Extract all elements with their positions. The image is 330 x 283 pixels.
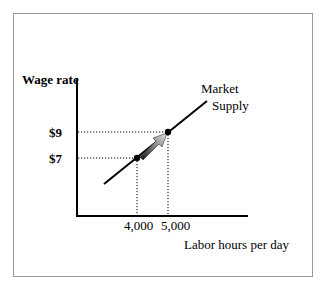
point-5000-9 <box>165 129 171 135</box>
series-label-line2: Supply <box>212 98 249 113</box>
series-label-line1: Market <box>201 81 239 96</box>
x-tick-4000: 4,000 <box>124 218 153 233</box>
x-tick-5000: 5,000 <box>161 218 190 233</box>
y-axis-label: Wage rate <box>22 72 79 87</box>
x-axis-label: Labor hours per day <box>184 237 290 252</box>
y-tick-9: $9 <box>49 125 63 140</box>
point-4000-7 <box>134 155 140 161</box>
supply-chart: Wage rate $9 $7 4,000 5,000 Labor hours … <box>0 0 330 283</box>
movement-arrow-icon <box>140 133 167 160</box>
y-tick-7: $7 <box>49 151 63 166</box>
